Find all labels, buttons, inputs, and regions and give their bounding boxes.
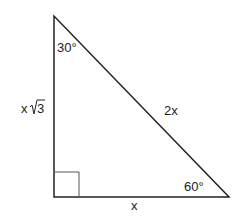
triangle-diagram: 30° 60° x 3 2x x (0, 0, 242, 220)
triangle-outline (54, 16, 229, 197)
side-label-base: x (131, 198, 138, 213)
side-label-hypotenuse: 2x (164, 103, 178, 118)
right-angle-marker (54, 172, 79, 197)
side-label-vertical-coef: x (21, 101, 28, 116)
angle-label-top: 30° (57, 40, 77, 55)
side-label-vertical: x 3 (21, 100, 45, 116)
angle-label-bottom-right: 60° (184, 179, 204, 194)
side-label-vertical-radicand: 3 (37, 101, 44, 116)
